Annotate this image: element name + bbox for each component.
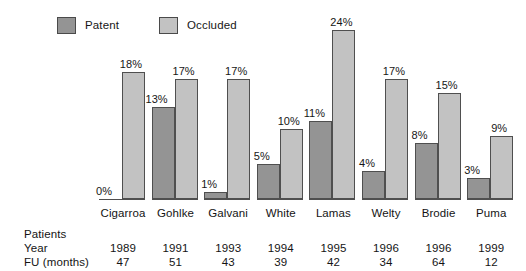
bar-value-label-patent: 11% [299, 107, 329, 119]
baseline-tick [362, 199, 408, 200]
bar-value-label-patent: 5% [247, 150, 277, 162]
bar-value-label-occluded: 17% [221, 65, 251, 77]
baseline-tick [257, 199, 303, 200]
bar-value-label-occluded: 18% [116, 58, 146, 70]
bar-group: 13%17%Gohlke [149, 24, 203, 199]
bar-patent [362, 171, 385, 199]
table-cell-fu-months: 12 [457, 256, 525, 269]
bar-group-bars: 13%17% [149, 24, 203, 199]
baseline-tick [415, 199, 461, 200]
bar-value-label-occluded: 24% [326, 16, 356, 28]
bar-value-label-occluded: 9% [484, 122, 514, 134]
bar-value-label-occluded: 17% [169, 65, 199, 77]
row-label-year: Year [24, 242, 48, 255]
bar-group: 11%24%Lamas [306, 24, 360, 199]
bar-occluded [280, 129, 303, 200]
annotation-table: Patients Year FU (months) 19894719915119… [0, 228, 526, 271]
bar-group: 3%9%Puma [464, 24, 518, 199]
bar-occluded [332, 30, 355, 199]
table-cell-year: 1999 [457, 242, 525, 255]
bar-value-label-patent: 8% [405, 129, 435, 141]
baseline-tick [204, 199, 250, 200]
bar-chart-figure: Patent Occluded 0%18%Cigarroa13%17%Gohlk… [0, 0, 526, 271]
bar-group: 4%17%Welty [359, 24, 413, 199]
bar-group: 0%18%Cigarroa [96, 24, 150, 199]
bar-value-label-patent: 1% [194, 178, 224, 190]
bar-patent [152, 107, 175, 199]
bar-patent [309, 121, 332, 199]
bar-patent [415, 143, 438, 199]
x-axis-tick-label: Puma [457, 207, 525, 220]
baseline-tick [309, 199, 355, 200]
bar-patent [257, 164, 280, 199]
bar-value-label-patent: 4% [352, 157, 382, 169]
bar-occluded [122, 72, 145, 199]
bar-group-bars: 11%24% [306, 24, 360, 199]
bar-group-bars: 3%9% [464, 24, 518, 199]
baseline-tick [152, 199, 198, 200]
row-label-patients: Patients [24, 228, 66, 241]
bar-patent [467, 178, 490, 199]
bar-value-label-patent: 13% [142, 93, 172, 105]
bar-value-label-occluded: 17% [379, 65, 409, 77]
bar-value-label-patent: 3% [457, 164, 487, 176]
bar-value-label-patent: 0% [89, 185, 119, 197]
bar-occluded [490, 136, 513, 199]
bar-value-label-occluded: 15% [432, 79, 462, 91]
bar-occluded [438, 93, 461, 199]
bar-group-bars: 0%18% [96, 24, 150, 199]
bar-patent [204, 192, 227, 199]
bar-group-bars: 4%17% [359, 24, 413, 199]
bar-group-bars: 1%17% [201, 24, 255, 199]
row-label-fu-months: FU (months) [24, 256, 89, 269]
bar-group: 1%17%Galvani [201, 24, 255, 199]
baseline-tick [467, 199, 513, 200]
baseline-tick [99, 199, 145, 200]
bar-occluded [227, 79, 250, 199]
